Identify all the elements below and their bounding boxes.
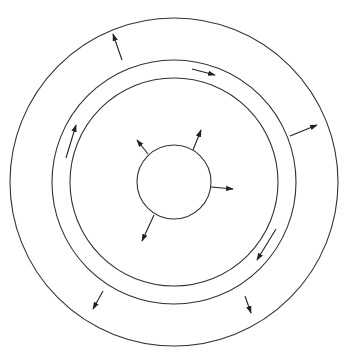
outer-band-arrow-right-icon — [290, 125, 317, 136]
outer-band-arrow-bottom-left-icon — [93, 291, 103, 309]
gap-arrow-bottom-right-icon — [257, 229, 276, 260]
inner-circle — [70, 78, 278, 286]
middle-circle — [52, 60, 296, 304]
arrows-group — [66, 34, 317, 313]
outer-circle — [10, 18, 338, 346]
circles-group — [10, 18, 338, 346]
outer-band-arrow-bottom-right-icon — [245, 296, 251, 313]
core-arrow-right-icon — [211, 187, 233, 189]
core-arrow-lower-left-icon — [142, 215, 154, 241]
core-circle — [137, 145, 211, 219]
gap-arrow-top-icon — [192, 69, 215, 75]
core-arrow-upper-left-icon — [137, 140, 148, 154]
concentric-circles-diagram — [0, 0, 345, 359]
diagram-canvas — [0, 0, 345, 359]
outer-band-arrow-top-icon — [113, 34, 122, 60]
core-arrow-upper-right-icon — [193, 130, 201, 150]
